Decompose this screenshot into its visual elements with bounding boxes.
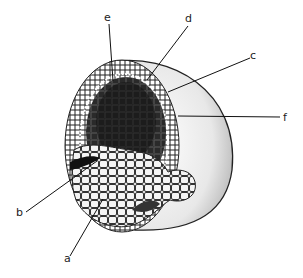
label-e: e [104,11,111,24]
label-f: f [283,111,288,124]
label-b: b [16,206,23,219]
diagram-svg: a b c d e f [0,0,303,278]
label-c: c [250,49,256,62]
label-d: d [185,12,192,25]
embryo-diagram: a b c d e f [0,0,303,278]
label-a: a [64,252,71,265]
